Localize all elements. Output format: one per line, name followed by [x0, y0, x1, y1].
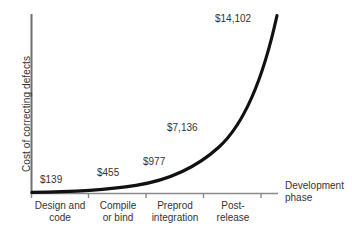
data-label-4: $7,136: [167, 122, 198, 134]
x-category-label-1-line1: Design and: [27, 200, 93, 212]
data-label-1: $139: [40, 174, 62, 186]
chart-figure: Cost of correcting defects Development p…: [0, 0, 352, 240]
x-category-label-4-line2: release: [200, 212, 266, 224]
x-category-label-4-line1: Post-: [200, 200, 266, 212]
x-category-label-1-line2: code: [27, 212, 93, 224]
data-label-3: $977: [143, 156, 165, 168]
x-category-label-1: Design and code: [27, 200, 93, 224]
data-label-5: $14,102: [215, 13, 251, 25]
x-category-label-3: Preprod integration: [142, 200, 208, 224]
x-axis-title: Development phase: [285, 180, 351, 204]
y-axis-title: Cost of correcting defects: [20, 2, 34, 172]
x-category-label-4: Post- release: [200, 200, 266, 224]
x-category-label-3-line1: Preprod: [142, 200, 208, 212]
x-axis-title-line2: phase: [285, 192, 351, 204]
data-label-2: $455: [97, 167, 119, 179]
x-category-label-3-line2: integration: [142, 212, 208, 224]
x-axis-title-line1: Development: [285, 180, 351, 192]
